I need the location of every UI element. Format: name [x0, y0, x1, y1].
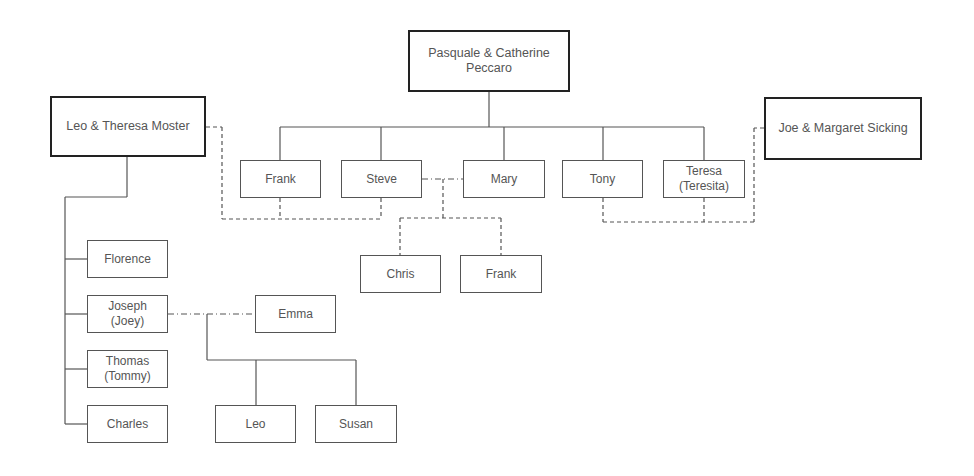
couple-moster[interactable]: Leo & Theresa Moster — [50, 96, 206, 157]
person-nickname: (Tommy) — [104, 369, 151, 384]
person-label: Charles — [107, 417, 148, 432]
couple-peccaro-line1: Pasquale & Catherine — [428, 46, 550, 61]
person-mary[interactable]: Mary — [463, 160, 545, 198]
person-steve[interactable]: Steve — [341, 160, 422, 198]
person-label: Leo — [245, 417, 265, 432]
person-label: Frank — [265, 172, 296, 187]
person-label: Susan — [339, 417, 373, 432]
person-label: Chris — [386, 267, 414, 282]
person-leo[interactable]: Leo — [215, 405, 296, 443]
person-charles[interactable]: Charles — [87, 405, 168, 443]
person-nickname: (Teresita) — [679, 179, 729, 194]
person-thomas[interactable]: Thomas (Tommy) — [87, 350, 168, 388]
person-label: Tony — [590, 172, 615, 187]
couple-peccaro[interactable]: Pasquale & Catherine Peccaro — [408, 30, 570, 92]
person-label: Joseph — [108, 299, 147, 314]
person-emma[interactable]: Emma — [255, 295, 336, 333]
couple-sicking[interactable]: Joe & Margaret Sicking — [764, 97, 922, 160]
person-nickname: (Joey) — [111, 314, 144, 329]
person-tony[interactable]: Tony — [562, 160, 643, 198]
person-florence[interactable]: Florence — [87, 240, 168, 278]
couple-peccaro-line2: Peccaro — [466, 61, 512, 76]
person-chris[interactable]: Chris — [360, 255, 441, 293]
person-label: Mary — [491, 172, 518, 187]
couple-sicking-label: Joe & Margaret Sicking — [778, 121, 907, 136]
person-label: Teresa — [686, 164, 722, 179]
person-label: Florence — [104, 252, 151, 267]
person-label: Steve — [366, 172, 397, 187]
person-label: Emma — [278, 307, 313, 322]
person-joseph[interactable]: Joseph (Joey) — [87, 295, 168, 333]
couple-moster-label: Leo & Theresa Moster — [66, 119, 189, 134]
person-label: Thomas — [106, 354, 149, 369]
person-teresa[interactable]: Teresa (Teresita) — [663, 160, 745, 198]
person-label: Frank — [486, 267, 517, 282]
person-susan[interactable]: Susan — [315, 405, 397, 443]
person-frank-peccaro[interactable]: Frank — [240, 160, 321, 198]
person-frank-junior[interactable]: Frank — [460, 255, 542, 293]
